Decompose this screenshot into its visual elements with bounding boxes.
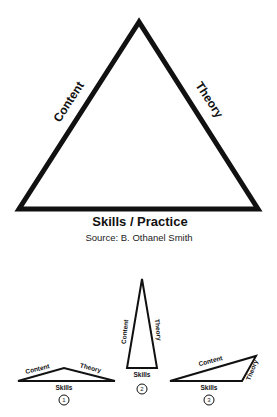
variant-2-theory-label: Theory — [153, 319, 163, 342]
main-skills-practice-label: Skills / Practice — [92, 214, 187, 229]
variant-2-skills-label: Skills — [134, 371, 151, 378]
variant-2-content-label: Content — [120, 318, 130, 344]
variant-3-theory-label: Theory — [244, 358, 260, 381]
variant-3-content-label: Content — [198, 354, 224, 367]
variant-3-number: 3 — [207, 397, 211, 403]
variant-3-skills-label: Skills — [201, 384, 218, 391]
source-citation: Source: B. Othanel Smith — [85, 232, 192, 243]
variant-2-triangle — [127, 279, 157, 368]
main-content-label: Content — [50, 79, 86, 125]
variant-1-number: 1 — [62, 397, 66, 403]
variant-1-skills-label: Skills — [56, 384, 73, 391]
variant-2-number: 2 — [140, 386, 144, 392]
diagram-canvas: Content Theory Skills / Practice Source:… — [0, 0, 277, 417]
